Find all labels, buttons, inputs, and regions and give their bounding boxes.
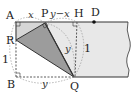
label-ph: y−x (49, 8, 70, 19)
label-q: Q (70, 80, 79, 92)
label-d: D (91, 6, 100, 19)
label-a: A (5, 9, 15, 22)
label-hq: 1 (84, 42, 91, 55)
label-h: H (74, 7, 84, 20)
label-b: B (7, 78, 15, 91)
label-p: P (41, 7, 49, 20)
label-ap: x (28, 9, 34, 20)
geometry-figure: A P H D R B Q x y−x y 1 1 y (0, 0, 138, 92)
label-pq: y (64, 43, 71, 54)
point-d-dot (92, 20, 96, 24)
label-ab: 1 (2, 53, 9, 66)
label-bq: y (41, 78, 48, 89)
label-r: R (6, 34, 15, 47)
diagram-svg: A P H D R B Q x y−x y 1 1 y (0, 0, 138, 92)
